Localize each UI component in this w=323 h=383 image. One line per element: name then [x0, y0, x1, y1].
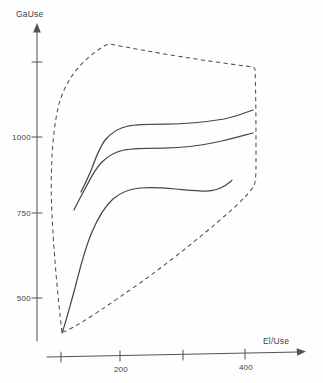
upper-solid-curve-path	[81, 110, 253, 192]
x-tick-label-200: 200	[114, 365, 128, 374]
plot-canvas: 1000 750 500 200 400 GaUse El/Use	[0, 0, 323, 383]
x-tick-label-400: 400	[239, 363, 253, 372]
x-axis-arrow-icon	[297, 348, 306, 356]
tick-label-group: 1000 750 500 200 400	[12, 133, 253, 374]
figure-root: 1000 750 500 200 400 GaUse El/Use	[0, 0, 323, 383]
middle-solid-curve-path	[74, 133, 253, 210]
y-axis-arrow-icon	[33, 23, 41, 33]
x-axis-title: El/Use	[263, 336, 289, 346]
y-tick-label-750: 750	[17, 209, 31, 218]
y-tick-label-1000: 1000	[12, 133, 31, 142]
lower-solid-curve-path	[62, 180, 232, 333]
data-curves-group	[62, 110, 253, 333]
y-axis-title: GaUse	[16, 9, 44, 19]
y-tick-label-500: 500	[17, 294, 31, 303]
x-axis-line	[47, 352, 299, 357]
